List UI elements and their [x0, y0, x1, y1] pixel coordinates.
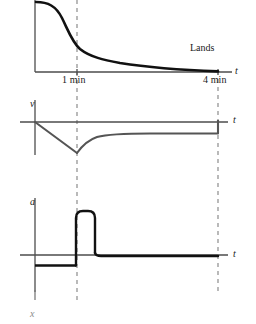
position-curve: [36, 2, 218, 71]
lands-label: Lands: [190, 42, 214, 53]
position-axis-t-label: t: [235, 65, 238, 76]
acceleration-axis-a-label: a: [30, 196, 35, 207]
tick-label-4-min: 4 min: [203, 74, 227, 85]
velocity-recovery-and-terminal-segment: [77, 134, 218, 154]
motion-graphs-figure: Lands 1 min 4 min t v t a t x: [0, 0, 256, 324]
position-lower-axis-x-label: x: [30, 308, 34, 319]
velocity-falling-segment: [35, 122, 77, 153]
velocity-axis-v-label: v: [30, 98, 34, 109]
graphs-canvas: [0, 0, 256, 324]
acceleration-axis-t-label: t: [233, 248, 236, 259]
velocity-axis-t-label: t: [233, 114, 236, 125]
acceleration-positive-pulse: [76, 211, 95, 266]
tick-label-1-min: 1 min: [62, 74, 86, 85]
